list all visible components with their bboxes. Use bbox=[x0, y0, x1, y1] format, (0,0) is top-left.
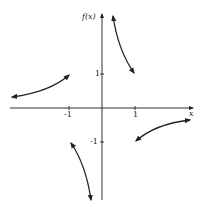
curve-lower-left bbox=[71, 143, 91, 200]
y-tick-label-neg1: -1 bbox=[90, 138, 98, 146]
curve-upper-left bbox=[12, 75, 69, 97]
y-axis-label: f(x) bbox=[82, 13, 96, 21]
curve-lower-right bbox=[136, 120, 190, 141]
curve-upper-right bbox=[113, 16, 134, 73]
x-tick-label-pos1: 1 bbox=[133, 111, 138, 119]
x-axis-label: x bbox=[189, 110, 194, 118]
x-tick-label-neg1: -1 bbox=[64, 111, 72, 119]
y-tick-label-pos1: 1 bbox=[95, 70, 100, 78]
function-graph bbox=[0, 0, 202, 213]
